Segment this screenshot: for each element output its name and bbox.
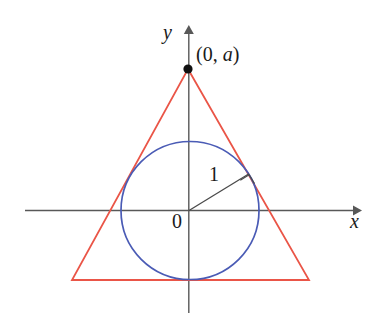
apex-label-variable: a xyxy=(223,43,233,65)
origin-label: 0 xyxy=(172,211,182,231)
geometry-figure: y x 0 (0, a) 1 xyxy=(0,0,376,322)
radius-length-label: 1 xyxy=(209,164,219,184)
y-axis-label: y xyxy=(163,22,172,42)
figure-canvas xyxy=(0,0,376,322)
radius-segment xyxy=(189,174,249,211)
x-axis-label: x xyxy=(350,211,359,231)
apex-point-label: (0, a) xyxy=(196,44,239,64)
apex-point-dot xyxy=(183,64,192,73)
axes-group xyxy=(25,25,362,313)
circumscribing-triangle xyxy=(72,69,309,280)
y-axis-arrowhead xyxy=(184,25,194,34)
